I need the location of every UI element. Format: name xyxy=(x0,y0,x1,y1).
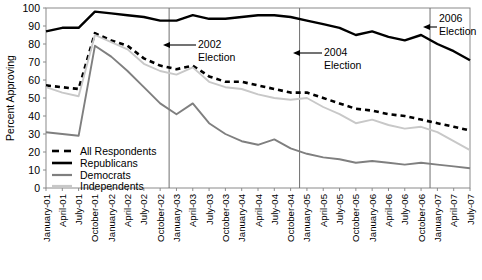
annotation-2006-line1: 2006 xyxy=(439,12,463,24)
x-tick-label: April-01 xyxy=(57,194,68,227)
y-tick-label: 20 xyxy=(28,146,40,158)
legend-label-independents: Independents xyxy=(80,180,144,192)
x-tick-label: October-04 xyxy=(285,193,296,242)
annotation-2004-line1: 2004 xyxy=(324,46,348,58)
annotation-2002-line1: 2002 xyxy=(198,38,222,50)
legend-label-republicans: Republicans xyxy=(80,157,138,169)
approval-rating-chart: 1009080706050403020100 Percent Approving… xyxy=(0,0,482,280)
y-tick-label: 40 xyxy=(28,110,40,122)
x-tick-label: July-04 xyxy=(269,193,280,225)
x-axis-tick-labels: January-01April-01July-01October-01Janua… xyxy=(41,193,476,242)
x-tick-label: October-06 xyxy=(416,194,427,242)
x-tick-label: July-02 xyxy=(138,194,149,225)
x-tick-label: April-06 xyxy=(383,194,394,227)
chart-svg: 1009080706050403020100 Percent Approving… xyxy=(0,0,482,280)
x-tick-label: July-03 xyxy=(204,194,215,225)
x-tick-label: October-05 xyxy=(350,194,361,242)
x-tick-label: July-05 xyxy=(334,194,345,225)
x-tick-label: July-07 xyxy=(465,194,476,225)
y-tick-label: 60 xyxy=(28,74,40,86)
y-tick-label: 0 xyxy=(34,182,40,194)
x-tick-label: April-07 xyxy=(448,194,459,227)
x-tick-label: April-04 xyxy=(253,193,264,227)
y-tick-label: 90 xyxy=(28,20,40,32)
y-tick-label: 80 xyxy=(28,38,40,50)
annotation-2006-line2: Election xyxy=(439,25,477,37)
x-tick-label: January-01 xyxy=(41,194,52,242)
y-tick-label: 50 xyxy=(28,92,40,104)
x-tick-label: January-02 xyxy=(106,194,117,242)
y-tick-label: 100 xyxy=(22,2,40,14)
x-tick-label: July-06 xyxy=(399,194,410,225)
x-tick-label: January-05 xyxy=(301,194,312,242)
x-tick-label: January-07 xyxy=(432,194,443,242)
x-tick-label: October-03 xyxy=(220,194,231,242)
y-tick-label: 70 xyxy=(28,56,40,68)
x-tick-label: January-04 xyxy=(236,193,247,242)
legend-label-all-respondents: All Respondents xyxy=(80,145,156,157)
x-tick-label: October-01 xyxy=(89,194,100,242)
x-tick-label: October-02 xyxy=(155,194,166,242)
y-axis-title: Percent Approving xyxy=(4,55,16,141)
annotation-2002-line2: Election xyxy=(198,51,236,63)
x-tick-label: April-05 xyxy=(318,194,329,227)
x-tick-label: April-03 xyxy=(187,194,198,227)
x-tick-label: April-02 xyxy=(122,194,133,227)
y-tick-label: 30 xyxy=(28,128,40,140)
x-tick-label: January-06 xyxy=(367,194,378,242)
x-tick-label: July-01 xyxy=(73,194,84,225)
y-tick-label: 10 xyxy=(28,164,40,176)
annotation-2004-line2: Election xyxy=(324,59,362,71)
y-axis-tick-labels: 1009080706050403020100 xyxy=(22,2,40,194)
x-tick-label: January-03 xyxy=(171,194,182,242)
